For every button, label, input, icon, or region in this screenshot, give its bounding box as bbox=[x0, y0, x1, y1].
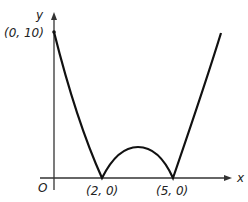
y-axis-arrow-icon bbox=[51, 12, 57, 20]
point-label-0-10: (0, 10) bbox=[4, 26, 44, 40]
function-graph: y x O (0, 10) (2, 0) (5, 0) bbox=[0, 0, 248, 202]
y-axis-label: y bbox=[35, 8, 44, 22]
x-axis-label: x bbox=[236, 171, 245, 185]
x-axis-arrow-icon bbox=[224, 175, 232, 181]
point-label-2-0: (2, 0) bbox=[86, 184, 118, 198]
function-curve bbox=[54, 32, 221, 178]
point-label-5-0: (5, 0) bbox=[156, 184, 188, 198]
point-0-10 bbox=[52, 30, 56, 34]
origin-label: O bbox=[38, 181, 47, 195]
